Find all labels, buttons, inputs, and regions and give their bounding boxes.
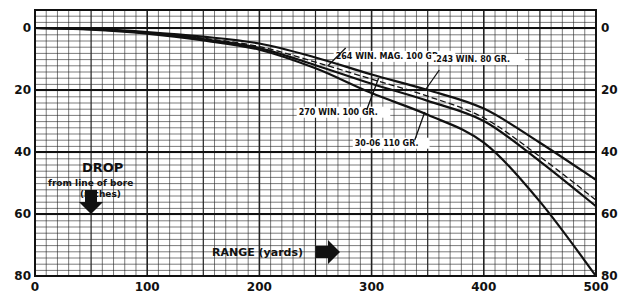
grid	[35, 10, 596, 276]
y-tick-right: 0	[601, 21, 609, 35]
x-tick: 300	[359, 280, 384, 294]
y-tick-left: 20	[14, 83, 31, 97]
x-tick: 200	[247, 280, 272, 294]
y-tick-right: 20	[601, 83, 618, 97]
x-tick: 500	[583, 280, 608, 294]
y-tick-left: 80	[14, 269, 31, 283]
curve-labels: 264 WIN. MAG. 100 GR..243 WIN. 80 GR.270…	[297, 48, 525, 149]
x-tick: 100	[135, 280, 160, 294]
ballistic-drop-chart: 0020204040606080800100200300400500 264 W…	[0, 0, 628, 303]
drop-title: DROP	[82, 160, 123, 175]
right-arrow-icon	[316, 240, 340, 264]
curve-label: 30-06 110 GR.	[355, 139, 419, 148]
y-tick-right: 60	[601, 207, 618, 221]
y-tick-left: 40	[14, 145, 31, 159]
y-tick-right: 40	[601, 145, 618, 159]
range-label: RANGE (yards)	[212, 246, 303, 259]
x-tick: 0	[31, 280, 39, 294]
y-tick-left: 0	[23, 21, 31, 35]
drop-subtitle: from line of bore	[48, 178, 133, 188]
curve-label: 264 WIN. MAG. 100 GR.	[336, 52, 442, 61]
y-tick-left: 60	[14, 207, 31, 221]
curve-label: .243 WIN. 80 GR.	[433, 55, 510, 64]
curve-label: 270 WIN. 100 GR.	[299, 108, 378, 117]
x-tick: 400	[471, 280, 496, 294]
